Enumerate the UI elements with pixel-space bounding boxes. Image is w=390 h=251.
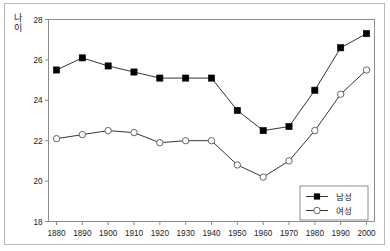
- series-line-여성: [57, 70, 367, 177]
- data-point-marker: [338, 45, 344, 51]
- chart-figure: 나 이 182022242628188018901900191019201930…: [0, 0, 390, 251]
- data-point-marker: [260, 128, 266, 134]
- x-tick-label: 1950: [228, 229, 247, 238]
- y-tick-label: 26: [33, 56, 43, 65]
- data-point-marker: [182, 138, 188, 144]
- plot-area: 1820222426281880189019001910192019301940…: [33, 16, 376, 238]
- x-tick-label: 1900: [99, 229, 118, 238]
- data-point-marker: [105, 127, 111, 133]
- data-point-marker: [208, 75, 214, 81]
- legend-box: [300, 186, 368, 220]
- x-tick-label: 1980: [306, 229, 325, 238]
- x-tick-label: 1990: [332, 229, 351, 238]
- legend-label: 여성: [336, 206, 352, 216]
- data-point-marker: [79, 55, 85, 61]
- series-line-남성: [57, 34, 367, 131]
- x-tick-label: 1880: [47, 229, 66, 238]
- data-point-marker: [234, 162, 240, 168]
- y-tick-label: 20: [33, 177, 43, 186]
- x-tick-label: 2000: [357, 229, 376, 238]
- x-tick-label: 1970: [280, 229, 299, 238]
- data-point-marker: [105, 63, 111, 69]
- legend-marker-filled-square: [314, 193, 320, 199]
- data-point-marker: [363, 67, 369, 73]
- y-tick-label: 24: [33, 96, 43, 105]
- chart-canvas: 1820222426281880189019001910192019301940…: [0, 0, 390, 251]
- data-point-marker: [53, 67, 59, 73]
- legend-marker-open-circle: [314, 207, 320, 213]
- data-point-marker: [79, 131, 85, 137]
- data-point-marker: [157, 75, 163, 81]
- data-point-marker: [337, 91, 343, 97]
- y-tick-label: 28: [33, 16, 43, 25]
- data-point-marker: [183, 75, 189, 81]
- y-tick-label: 18: [33, 218, 43, 227]
- legend-label: 남성: [336, 192, 352, 202]
- x-tick-label: 1940: [202, 229, 221, 238]
- data-point-marker: [260, 174, 266, 180]
- x-tick-label: 1930: [177, 229, 196, 238]
- data-point-marker: [286, 158, 292, 164]
- x-tick-label: 1890: [73, 229, 92, 238]
- data-point-marker: [157, 140, 163, 146]
- x-tick-label: 1960: [254, 229, 273, 238]
- data-point-marker: [131, 69, 137, 75]
- data-point-marker: [208, 138, 214, 144]
- data-point-marker: [312, 87, 318, 93]
- data-point-marker: [363, 31, 369, 37]
- data-point-marker: [131, 129, 137, 135]
- y-tick-label: 22: [33, 137, 43, 146]
- data-point-marker: [312, 127, 318, 133]
- data-point-marker: [286, 123, 292, 129]
- x-tick-label: 1920: [151, 229, 170, 238]
- x-tick-label: 1910: [125, 229, 144, 238]
- data-point-marker: [234, 107, 240, 113]
- data-point-marker: [53, 135, 59, 141]
